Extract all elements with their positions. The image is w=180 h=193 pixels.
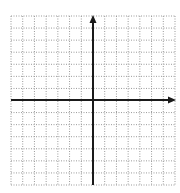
- x-axis-arrow-icon: [168, 97, 176, 104]
- coordinate-plane: [0, 0, 180, 193]
- y-axis-arrow-icon: [90, 15, 97, 23]
